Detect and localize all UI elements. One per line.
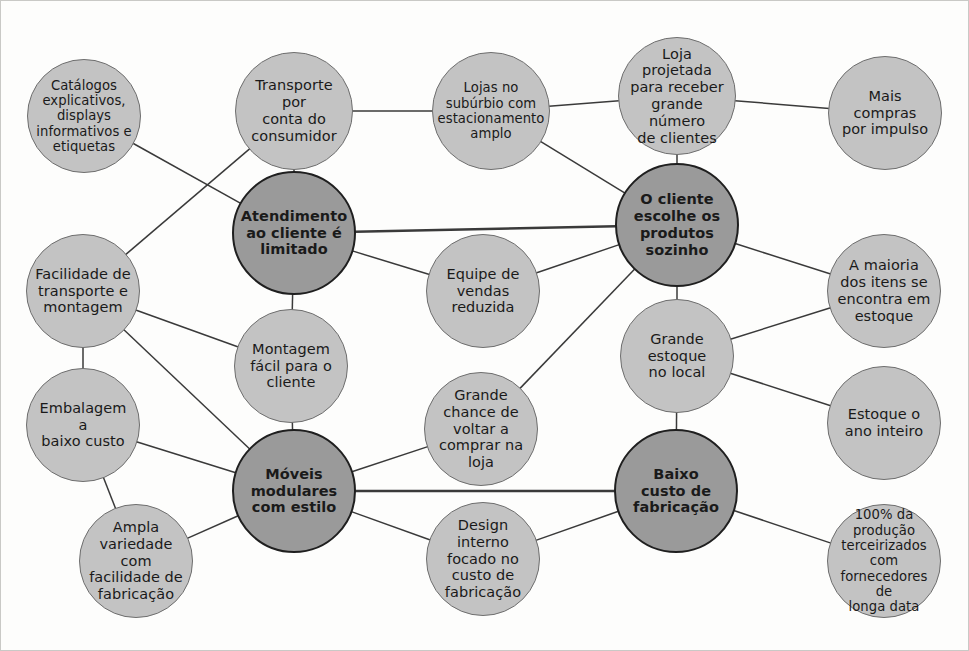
node-mais-compras[interactable]: Mais compras por impulso	[828, 56, 942, 170]
node-label-transporte: Transporte por conta do consumidor	[236, 77, 352, 144]
node-label-grande-chance: Grande chance de voltar a comprar na loj…	[433, 387, 529, 471]
edge-facilidade-to-montagem-facil	[136, 310, 239, 347]
diagram-canvas: Catálogos explicativos, displays informa…	[0, 0, 969, 651]
edge-atendimento-to-equipe-vendas	[352, 251, 429, 275]
node-grande-estoque[interactable]: Grande estoque no local	[620, 299, 734, 413]
node-label-ampla-variedade: Ampla variedade com facilidade de fabric…	[80, 519, 192, 603]
node-label-moveis: Móveis modulares com estilo	[245, 466, 344, 516]
node-label-equipe-vendas: Equipe de vendas reduzida	[441, 266, 526, 316]
hub-node-atendimento[interactable]: Atendimento ao cliente é limitado	[232, 171, 356, 295]
edge-embalagem-to-ampla-variedade	[103, 477, 115, 509]
node-grande-chance[interactable]: Grande chance de voltar a comprar na loj…	[424, 372, 538, 486]
node-label-montagem-facil: Montagem fácil para o cliente	[244, 341, 338, 391]
edge-lojas-suburbio-to-cliente-escolhe	[540, 141, 625, 193]
node-producao-100[interactable]: 100% da produção terceirizados com forne…	[827, 504, 941, 618]
edge-facilidade-to-moveis	[124, 330, 250, 450]
hub-node-cliente-escolhe[interactable]: O cliente escolhe os produtos sozinho	[615, 163, 739, 287]
edge-grande-estoque-to-a-maioria	[730, 308, 830, 339]
node-montagem-facil[interactable]: Montagem fácil para o cliente	[234, 309, 348, 423]
edge-moveis-to-design-interno	[351, 512, 430, 540]
node-label-cliente-escolhe: O cliente escolhe os produtos sozinho	[628, 191, 726, 258]
node-label-mais-compras: Mais compras por impulso	[836, 88, 934, 138]
hub-node-moveis[interactable]: Móveis modulares com estilo	[232, 429, 356, 553]
node-ampla-variedade[interactable]: Ampla variedade com facilidade de fabric…	[79, 504, 193, 618]
edge-embalagem-to-moveis	[136, 442, 235, 473]
edge-moveis-to-ampla-variedade	[187, 516, 238, 539]
node-loja-projetada[interactable]: Loja projetada para receber grande númer…	[618, 37, 736, 155]
node-embalagem[interactable]: Embalagem a baixo custo	[26, 368, 140, 482]
node-lojas-suburbio[interactable]: Lojas no subúrbio com estacionamento amp…	[432, 52, 550, 170]
edge-cliente-escolhe-to-a-maioria	[735, 244, 831, 274]
node-equipe-vendas[interactable]: Equipe de vendas reduzida	[426, 234, 540, 348]
node-catalogos[interactable]: Catálogos explicativos, displays informa…	[27, 59, 141, 173]
node-label-embalagem: Embalagem a baixo custo	[27, 400, 139, 450]
node-design-interno[interactable]: Design interno focado no custo de fabric…	[426, 502, 540, 616]
node-transporte[interactable]: Transporte por conta do consumidor	[235, 52, 353, 170]
edge-loja-projetada-to-mais-compras	[735, 101, 829, 109]
node-label-facilidade: Facilidade de transporte e montagem	[29, 266, 137, 316]
edge-grande-estoque-to-estoque-ano	[730, 373, 830, 406]
node-estoque-ano[interactable]: Estoque o ano inteiro	[827, 366, 941, 480]
edge-grande-chance-to-moveis	[352, 447, 428, 472]
node-label-loja-projetada: Loja projetada para receber grande númer…	[619, 46, 735, 147]
node-label-design-interno: Design interno focado no custo de fabric…	[439, 517, 527, 601]
edge-design-interno-to-baixo-custo	[536, 511, 619, 540]
node-label-atendimento: Atendimento ao cliente é limitado	[235, 208, 353, 258]
node-label-a-maioria: A maioria dos itens se encontra em estoq…	[832, 257, 937, 324]
node-facilidade[interactable]: Facilidade de transporte e montagem	[26, 234, 140, 348]
node-label-estoque-ano: Estoque o ano inteiro	[839, 406, 929, 440]
node-label-lojas-suburbio: Lojas no subúrbio com estacionamento amp…	[432, 80, 551, 141]
node-label-producao-100: 100% da produção terceirizados com forne…	[828, 507, 940, 614]
edge-baixo-custo-to-producao-100	[734, 510, 831, 543]
node-label-grande-estoque: Grande estoque no local	[642, 331, 713, 381]
hub-node-baixo-custo[interactable]: Baixo custo de fabricação	[614, 429, 738, 553]
edge-atendimento-to-cliente-escolhe	[355, 226, 616, 231]
node-label-catalogos: Catálogos explicativos, displays informa…	[30, 78, 137, 155]
edge-transporte-to-facilidade	[126, 149, 250, 255]
edge-lojas-suburbio-to-loja-projetada	[549, 101, 619, 107]
node-a-maioria[interactable]: A maioria dos itens se encontra em estoq…	[827, 234, 941, 348]
node-label-baixo-custo: Baixo custo de fabricação	[627, 466, 725, 516]
edge-catalogos-to-atendimento	[133, 143, 241, 203]
edge-equipe-vendas-to-cliente-escolhe	[536, 245, 619, 273]
